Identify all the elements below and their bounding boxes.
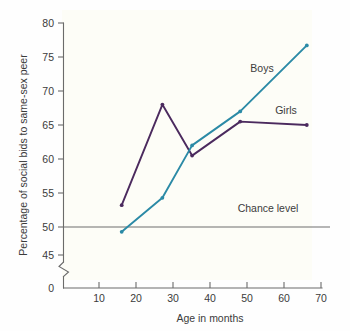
girls-series-line [122, 105, 307, 206]
x-axis-title: Age in months [176, 312, 243, 324]
y-tick-label-60: 60 [42, 153, 54, 165]
x-tick-label-30: 30 [167, 292, 179, 304]
y-tick-label-45: 45 [42, 249, 54, 261]
y-tick-label-50: 50 [42, 221, 54, 233]
x-tick-label-70: 70 [315, 292, 327, 304]
y-tick-label-0: 0 [48, 282, 54, 294]
x-tick-label-20: 20 [130, 292, 142, 304]
girls-data-point [305, 123, 309, 127]
boys-data-point [305, 44, 309, 48]
chart-figure: 80 75 70 65 60 55 50 45 0 10 20 30 40 50… [0, 0, 350, 331]
chance-level-label: Chance level [238, 202, 299, 214]
boys-series-label: Boys [250, 62, 273, 74]
y-axis-title: Percentage of social bids to same-sex pe… [17, 54, 29, 256]
y-axis-break-symbol [59, 262, 69, 277]
girls-data-point [120, 203, 124, 207]
y-tick-label-80: 80 [42, 17, 54, 29]
x-tick-label-50: 50 [241, 292, 253, 304]
boys-data-point [120, 230, 124, 234]
y-tick-label-75: 75 [42, 51, 54, 63]
boys-data-point [190, 144, 194, 148]
boys-data-point [161, 196, 165, 200]
girls-data-point [238, 120, 242, 124]
y-tick-label-55: 55 [42, 187, 54, 199]
x-tick-label-10: 10 [93, 292, 105, 304]
x-tick-label-60: 60 [278, 292, 290, 304]
y-tick-label-65: 65 [42, 119, 54, 131]
girls-data-point [161, 103, 165, 107]
line-chart-svg: 80 75 70 65 60 55 50 45 0 10 20 30 40 50… [0, 0, 350, 331]
x-tick-label-40: 40 [204, 292, 216, 304]
girls-series-label: Girls [275, 104, 297, 116]
boys-data-point [238, 110, 242, 114]
girls-data-point [190, 154, 194, 158]
y-tick-label-70: 70 [42, 85, 54, 97]
